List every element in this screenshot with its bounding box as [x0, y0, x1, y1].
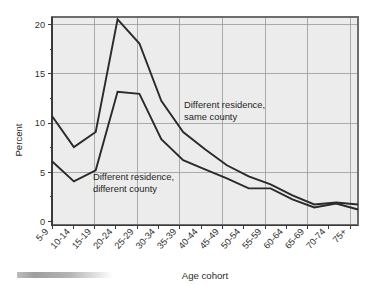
annotation-different-county-line1: Different residence, [93, 171, 174, 182]
x-tick-label-65-69: 65-69 [283, 227, 306, 251]
x-tick-label-15-19: 15-19 [70, 227, 93, 251]
x-tick-label-25-29: 25-29 [113, 227, 136, 251]
footer-gradient-bar [17, 272, 113, 278]
chart-figure: 20 15 10 5 0 Percent 5- [0, 0, 383, 285]
annotation-same-county-line1: Different residence, [184, 99, 265, 110]
y-tick-labels: 20 15 10 5 0 [35, 20, 45, 227]
annotation-same-county-line2: same county [184, 111, 237, 122]
x-tick-label-50-54: 50-54 [219, 227, 242, 251]
x-tick-label-40-44: 40-44 [176, 227, 199, 251]
y-tick-label-15: 15 [35, 69, 45, 79]
x-tick-label-70-74: 70-74 [304, 227, 327, 251]
y-tick-label-0: 0 [40, 217, 45, 227]
annotation-different-county-line2: different county [93, 183, 157, 194]
x-tick-label-55-59: 55-59 [240, 227, 263, 251]
x-axis-title: Age cohort [182, 270, 229, 281]
x-tick-label-5-9: 5-9 [34, 227, 50, 244]
line-chart: 20 15 10 5 0 Percent 5- [0, 0, 383, 285]
x-tick-labels: 5-9 10-14 15-19 20-24 25-29 30-34 35-39 … [34, 227, 349, 251]
x-tick-label-45-49: 45-49 [198, 227, 221, 251]
x-tick-label-20-24: 20-24 [91, 227, 114, 251]
y-axis-title: Percent [13, 123, 24, 156]
x-tick-label-75plus: 75+ [331, 227, 349, 245]
x-tick-label-35-39: 35-39 [155, 227, 178, 251]
y-tick-label-5: 5 [40, 168, 45, 178]
y-tick-label-10: 10 [35, 118, 45, 128]
y-tick-label-20: 20 [35, 20, 45, 30]
x-tick-label-60-64: 60-64 [262, 227, 285, 251]
x-tick-label-10-14: 10-14 [49, 227, 72, 251]
x-tick-label-30-34: 30-34 [134, 227, 157, 251]
